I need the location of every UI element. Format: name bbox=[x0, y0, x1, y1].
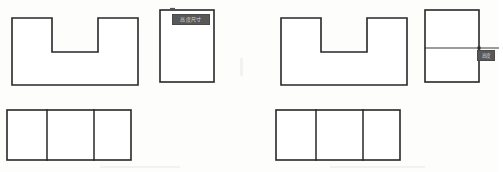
u-shape-outline bbox=[12, 18, 138, 85]
right-side-view bbox=[423, 8, 503, 88]
right-front-view-svg bbox=[274, 5, 416, 97]
scan-artifact bbox=[100, 166, 180, 168]
left-front-view-svg bbox=[5, 5, 147, 97]
left-plan-view bbox=[5, 108, 137, 166]
left-front-view bbox=[5, 5, 147, 97]
left-plan-view-svg bbox=[5, 108, 137, 166]
right-projection-group bbox=[249, 0, 498, 172]
scan-artifact bbox=[240, 58, 243, 76]
side-view-rect bbox=[425, 10, 479, 82]
plan-view-outline bbox=[7, 110, 131, 160]
plan-view-outline bbox=[276, 110, 400, 160]
right-plan-view bbox=[274, 108, 406, 166]
annotation-label-right: 高度 bbox=[477, 50, 495, 61]
right-plan-view-svg bbox=[274, 108, 406, 166]
right-side-view-svg bbox=[423, 8, 503, 88]
u-shape-outline bbox=[281, 18, 407, 85]
right-front-view bbox=[274, 5, 416, 97]
annotation-label-left: 高度尺寸 bbox=[172, 14, 210, 25]
scan-artifact bbox=[330, 166, 425, 168]
left-projection-group bbox=[0, 0, 249, 172]
